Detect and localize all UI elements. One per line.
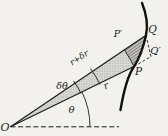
label-origin-o: O: [0, 122, 9, 133]
label-point-q-prime: Q′: [150, 46, 160, 56]
radius-ray-r: [11, 67, 135, 127]
radius-ray-r-plus-dr: [11, 35, 147, 127]
label-point-p: P: [135, 65, 142, 76]
label-delta-theta: δθ: [56, 81, 67, 91]
polar-coordinates-diagram: O θ δθ r r+δr P′ Q Q′ P: [0, 0, 168, 136]
theta-angle-arc: [82, 92, 90, 127]
label-point-q: Q: [148, 23, 157, 34]
diagram-canvas: [0, 0, 168, 136]
label-point-p-prime: P′: [114, 29, 123, 39]
label-theta: θ: [68, 105, 74, 115]
